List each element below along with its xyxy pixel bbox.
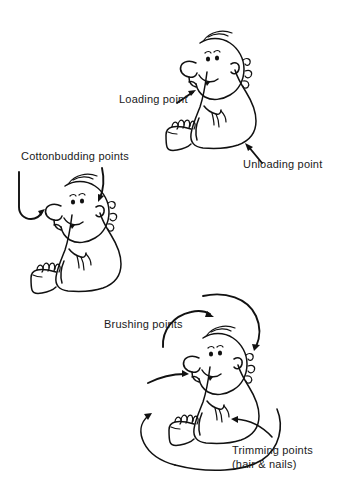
arrow-cottonbudding-nose — [19, 172, 45, 219]
label-unloading-point: Unloading point — [243, 158, 322, 172]
arrow-brushing-teeth — [148, 370, 189, 383]
label-loading-point: Loading point — [119, 93, 188, 107]
illustration-canvas — [0, 0, 339, 499]
label-trimming-points-line2: (hair & nails) — [232, 458, 313, 472]
label-brushing-points: Brushing points — [104, 318, 183, 332]
baby-figure-middle-left — [19, 168, 121, 293]
arrow-cottonbudding-ear — [98, 168, 104, 202]
arrow-brushing-hair-right — [203, 294, 260, 351]
label-trimming-points: Trimming points (hair & nails) — [232, 444, 313, 471]
label-cottonbudding-points: Cottonbudding points — [21, 150, 129, 164]
label-trimming-points-line1: Trimming points — [232, 444, 313, 456]
